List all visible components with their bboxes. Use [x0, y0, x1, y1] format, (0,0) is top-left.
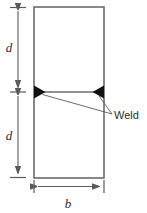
vertical-dimension-group: d d: [6, 8, 26, 178]
horizontal-dimension-group: b: [34, 180, 104, 211]
weld-label: Weld: [114, 109, 139, 121]
dimension-label-b: b: [65, 196, 72, 211]
dimension-label-lower-d: d: [6, 128, 13, 143]
diagram-canvas: d d b Weld: [0, 0, 147, 213]
weld-cross-section-figure: d d b Weld: [0, 0, 147, 213]
dimension-label-upper-d: d: [6, 40, 13, 55]
